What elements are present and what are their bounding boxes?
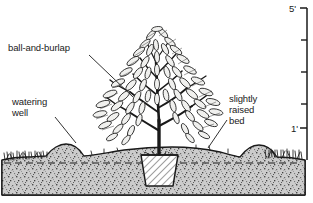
label-raised-bed-line3: bed (229, 115, 245, 126)
root-ball (141, 151, 178, 186)
label-ball-and-burlap: ball-and-burlap (8, 42, 70, 53)
label-raised-bed-line1: slightly (229, 93, 257, 104)
label-watering-well: wateringwell (12, 96, 47, 118)
measuring-scale (300, 8, 307, 160)
leader-watering-well (55, 117, 76, 143)
scale-label-1ft: 1' (291, 123, 298, 134)
label-watering-well-line1: watering (12, 96, 47, 107)
diagram-canvas: ball-and-burlap wateringwell slightlyrai… (0, 0, 313, 203)
scale-label-5ft: 5' (289, 3, 296, 14)
label-slightly-raised-bed: slightlyraisedbed (229, 93, 257, 126)
label-watering-well-line2: well (12, 107, 28, 118)
label-raised-bed-line2: raised (229, 104, 254, 115)
